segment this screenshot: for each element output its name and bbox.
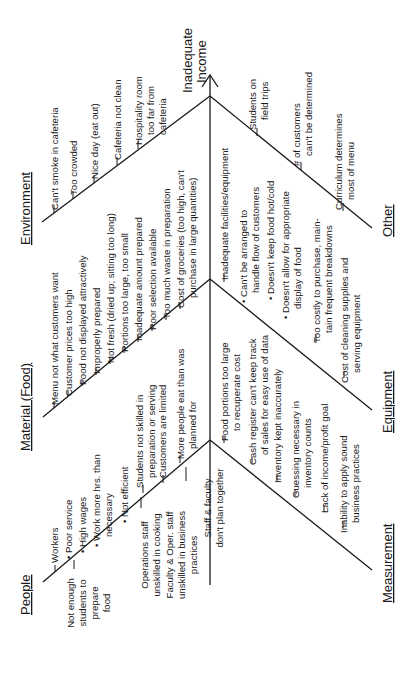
cause-item-material: Not fresh (dried up; sitting too long) (105, 213, 116, 363)
cause-item-line: Operations staff (139, 521, 150, 589)
cause-item-equipment: Cost of cleaning supplies andserving equ… (339, 258, 362, 383)
cause-item-line: Cost of cleaning supplies and (339, 258, 350, 383)
cause-item-line: food (101, 594, 112, 613)
cause-item-line: Can't smoke in cafeteria (49, 107, 60, 210)
cause-item-people: • Work more hrs. thannecessary (91, 454, 114, 547)
cause-item-equipment: Too costly to purchase, main-tain freque… (311, 218, 334, 343)
category-label-people: People (18, 575, 33, 615)
cause-item-line: Hospitality room (133, 76, 144, 145)
cause-item-line: Portions too large, too small (119, 233, 130, 352)
cause-item-line: Not enough (65, 578, 76, 628)
category-label-equipment: Equipment (380, 370, 395, 433)
effect-label-line-2: Income (194, 40, 209, 83)
cause-item-equipment: • Can't be arranged tohandle flow of cus… (238, 187, 261, 303)
cause-item-line: of sales for easy use of data (259, 334, 270, 455)
cause-item-line: Nice day (eat out) (89, 103, 100, 179)
cause-item-line: Inventory kept inaccurately (272, 369, 283, 483)
cause-item-line: purchase in large quantities) (187, 177, 198, 298)
cause-item-line: handle flow of customers (250, 187, 261, 293)
cause-item-line: preparation or serving (146, 385, 157, 478)
cause-item-line: Customers are limited (157, 385, 168, 478)
cause-item-environment: Cafeteria not clean (112, 79, 123, 160)
cause-item-line: Customer prices too high (63, 289, 74, 396)
cause-item-people: Staff & facultydon't plan together (202, 468, 225, 548)
cause-item-line: inventory counts (302, 418, 313, 488)
cause-item-material: Customer prices too high (63, 289, 74, 396)
cause-item-people: Not enoughstudents topreparefood (65, 578, 112, 628)
cause-item-line: prepare (89, 586, 100, 619)
cause-item-material: Cost of groceries (too high, can'tpurcha… (175, 170, 198, 308)
cause-item-line: unskilled in cooking (151, 513, 162, 596)
category-label-environment: Environment (18, 172, 33, 245)
cause-item-people: Faculty & Oper. staffunskilled in busine… (164, 511, 199, 599)
cause-item-material: Too much waste in preparation (161, 188, 172, 319)
cause-item-environment: Too crowded (68, 141, 79, 195)
cause-item-line: • Work more hrs. than (91, 454, 102, 547)
cause-item-line: Lack of income/profit goal (319, 404, 330, 513)
cause-item-measurement: Guessing necessary ininventory counts (290, 401, 313, 498)
cause-item-people: • Not efficient (119, 466, 130, 523)
cause-item-measurement: Lack of income/profit goal (319, 404, 330, 513)
cause-item-measurement: Inability to apply soundbusiness practic… (338, 435, 361, 533)
cause-item-line: practices (188, 536, 199, 575)
cause-item-line: Faculty & Oper. staff (164, 511, 175, 598)
cause-item-line: Improperly prepared (91, 288, 102, 374)
cause-item-line: Too costly to purchase, main- (311, 218, 322, 343)
cause-item-people: • High wages (77, 497, 88, 553)
cause-item-line: too far from (145, 86, 156, 135)
category-label-measurement: Measurement (380, 523, 395, 603)
cause-item-line: Inability to apply sound (338, 435, 349, 533)
cause-item-material: Poor selection available (147, 229, 158, 330)
cause-item-people: Students not skilled inpreparation or se… (134, 385, 157, 488)
cause-item-environment: Nice day (eat out) (89, 103, 100, 179)
cause-item-other: Curriculum determinesmost of menu (333, 113, 356, 210)
cause-item-line: • Can't be arranged to (238, 210, 249, 303)
cause-item-material: Food not displayed attractively (77, 255, 88, 385)
cause-item-line: necessary (103, 493, 114, 537)
cause-item-line: Curriculum determines (333, 113, 344, 210)
cause-item-line: unskilled in business (176, 511, 187, 599)
cause-item-line: display of food (292, 247, 303, 309)
cause-item-line: tain frequent breakdowns (323, 225, 334, 333)
cause-item-line: • Not efficient (119, 466, 130, 523)
cause-item-line: Food portions too large (219, 342, 230, 441)
cause-item-other: # of customerscan't be determined (291, 72, 314, 166)
cause-item-line: • High wages (77, 497, 88, 553)
category-label-other: Other (380, 204, 395, 237)
cause-item-line: • Poor service (63, 500, 74, 559)
cause-item-line: • Doesn't allow for appropriate (280, 191, 291, 319)
cause-item-line: Too crowded (68, 141, 79, 195)
cause-item-line: planned for (187, 400, 198, 449)
cause-item-line: don't plan together (214, 468, 225, 548)
cause-item-line: Cafeteria not clean (112, 79, 123, 160)
cause-item-line: business practices (350, 444, 361, 523)
cause-item-line: Staff & faculty (202, 478, 213, 537)
cause-item-people: More people eat than wasplanned for (175, 348, 198, 459)
category-label-material: Material (Food) (18, 363, 33, 451)
cause-item-people: Operations staffunskilled in cooking (139, 513, 162, 596)
cause-item-equipment: Inadequate facilities/equipment (219, 147, 230, 280)
cause-item-line: Students not skilled in (134, 395, 145, 488)
cause-item-line: Guessing necessary in (290, 401, 301, 498)
cause-item-line: Inadequate amount prepared (133, 217, 144, 341)
cause-item-line: students to (77, 580, 88, 627)
cause-item-line: Inadequate facilities/equipment (219, 147, 230, 280)
cause-item-people: Workers (49, 527, 60, 563)
cause-item-line: Students on (247, 79, 258, 130)
cause-item-equipment: • Doesn't allow for appropriatedisplay o… (280, 191, 303, 319)
cause-item-people: • Poor service (63, 500, 74, 559)
cause-item-measurement: Inventory kept inaccurately (272, 369, 283, 483)
cause-item-line: can't be determined (303, 72, 314, 156)
cause-item-line: • Doesn't keep food hot/cold (265, 181, 276, 300)
cause-item-line: Cost of groceries (too high, can't (175, 170, 186, 308)
cause-item-line: field trips (259, 81, 270, 120)
cause-item-line: Food not displayed attractively (77, 255, 88, 385)
effect-label-line-1: Inadequate (180, 28, 195, 93)
cause-item-line: Menu not what customers want (49, 272, 60, 405)
cause-item-line: Too much waste in preparation (161, 188, 172, 319)
cause-item-material: Portions too large, too small (119, 233, 130, 352)
cause-item-other: Students onfield trips (247, 79, 270, 130)
cause-item-line: # of customers (291, 103, 302, 166)
cause-item-measurement: Cash register can't keep trackof sales f… (247, 334, 270, 465)
cause-item-people: Customers are limited (157, 385, 168, 478)
